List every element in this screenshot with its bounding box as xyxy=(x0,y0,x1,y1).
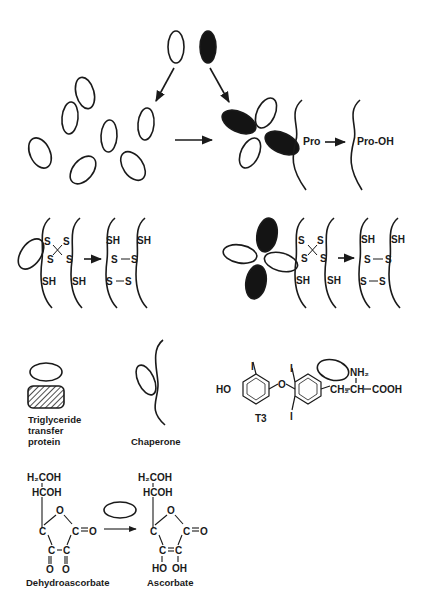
svg-text:O: O xyxy=(62,564,70,575)
svg-text:SH: SH xyxy=(106,235,120,246)
svg-text:C: C xyxy=(159,545,166,556)
t3-labels: HO I O I I CH₂ NH₂ CH COOH T3 xyxy=(216,361,402,424)
svg-text:S: S xyxy=(317,235,324,246)
svg-text:S: S xyxy=(47,254,54,265)
arrow-icon xyxy=(210,68,229,102)
ttp-label-line3: protein xyxy=(28,436,60,447)
svg-text:O: O xyxy=(278,379,286,390)
svg-text:S: S xyxy=(298,235,305,246)
diagram-canvas: Pro Pro-OH S S S S SH SH SH SH S S S S xyxy=(0,0,428,592)
svg-text:S: S xyxy=(106,276,113,287)
pro-oh-label: Pro-OH xyxy=(357,135,394,147)
svg-text:C: C xyxy=(72,526,79,537)
svg-text:HCOH: HCOH xyxy=(143,487,172,498)
svg-text:S: S xyxy=(131,254,138,265)
svg-text:S: S xyxy=(63,236,70,247)
arrow-icon xyxy=(156,68,174,101)
chaperone-label: Chaperone xyxy=(131,436,181,447)
svg-text:S: S xyxy=(379,276,386,287)
ascorbate-label: Ascorbate xyxy=(147,577,193,588)
middle-left-labels: S S S S SH SH SH SH S S S S xyxy=(42,235,151,287)
middle-left-panel xyxy=(13,218,147,308)
svg-text:S: S xyxy=(44,236,51,247)
svg-text:CH: CH xyxy=(350,384,364,395)
open-ellipse-icon xyxy=(168,31,184,63)
svg-text:I: I xyxy=(290,363,293,374)
svg-text:C: C xyxy=(39,526,46,537)
svg-text:SH: SH xyxy=(391,234,405,245)
svg-text:C: C xyxy=(183,526,190,537)
svg-text:S: S xyxy=(320,253,327,264)
svg-text:H₂COH: H₂COH xyxy=(27,472,61,483)
svg-text:SH: SH xyxy=(296,275,310,286)
svg-text:SH: SH xyxy=(137,235,151,246)
svg-text:COOH: COOH xyxy=(372,384,402,395)
svg-text:S: S xyxy=(364,254,371,265)
dehydroascorbate-label: Dehydroascorbate xyxy=(26,577,109,588)
dehydroascorbate-labels: H₂COH HCOH O C C O C C O O Dehydroascorb… xyxy=(26,472,109,588)
svg-text:NH₂: NH₂ xyxy=(350,367,369,378)
svg-text:HO: HO xyxy=(216,384,231,395)
svg-text:C: C xyxy=(63,545,70,556)
ttp-label-line2: transfer xyxy=(28,425,64,436)
svg-text:SH: SH xyxy=(361,234,375,245)
svg-text:C: C xyxy=(150,526,157,537)
chaperone-legend xyxy=(132,340,165,425)
svg-text:S: S xyxy=(360,276,367,287)
svg-text:I: I xyxy=(290,411,293,422)
svg-text:I: I xyxy=(251,361,254,372)
ascorbate-labels: H₂COH HCOH O C C O C C HO OH Ascorbate xyxy=(138,472,208,588)
svg-text:CH₂: CH₂ xyxy=(330,384,349,395)
t3-label: T3 xyxy=(255,413,267,424)
svg-text:SH: SH xyxy=(42,276,56,287)
triglyceride-transfer-protein-legend xyxy=(28,363,64,408)
middle-right-panel xyxy=(222,217,400,308)
svg-text:O: O xyxy=(46,564,54,575)
svg-text:O: O xyxy=(167,505,175,516)
svg-text:S: S xyxy=(125,276,132,287)
svg-text:SH: SH xyxy=(327,275,341,286)
svg-text:S: S xyxy=(301,253,308,264)
svg-text:H₂COH: H₂COH xyxy=(138,472,172,483)
svg-text:S: S xyxy=(385,254,392,265)
svg-text:C: C xyxy=(48,545,55,556)
filled-ellipse-icon xyxy=(200,31,216,63)
top-panel xyxy=(24,31,362,190)
svg-text:HO: HO xyxy=(152,563,167,574)
svg-text:S: S xyxy=(111,254,118,265)
pro-label: Pro xyxy=(303,135,321,147)
svg-text:O: O xyxy=(200,526,208,537)
svg-text:S: S xyxy=(66,254,73,265)
reaction-arrow xyxy=(104,502,136,529)
svg-text:C: C xyxy=(175,545,182,556)
ttp-label-line1: Triglyceride xyxy=(28,414,81,425)
svg-text:OH: OH xyxy=(172,563,187,574)
svg-text:SH: SH xyxy=(72,276,86,287)
svg-text:HCOH: HCOH xyxy=(32,487,61,498)
svg-text:O: O xyxy=(56,505,64,516)
svg-text:O: O xyxy=(89,526,97,537)
